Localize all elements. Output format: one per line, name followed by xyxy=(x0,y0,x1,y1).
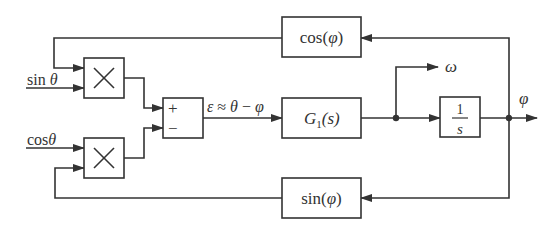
wire-mult-bottom-to-summer xyxy=(124,128,163,158)
output-omega-label: ω xyxy=(445,57,457,76)
junction-omega xyxy=(393,115,399,121)
wire-mult-top-to-summer xyxy=(124,78,163,108)
pll-block-diagram: + − ε ≈ θ − φ G1(s) 1 s cos(φ) sin(φ) si… xyxy=(0,0,558,234)
integrator-numerator: 1 xyxy=(457,102,464,117)
controller-block: G1(s) xyxy=(282,98,361,138)
summing-junction: + − xyxy=(163,98,203,138)
wire-phi-to-cos xyxy=(361,38,509,118)
cos-feedback-block: cos(φ) xyxy=(282,17,361,57)
junction-phi xyxy=(506,115,512,121)
controller-label: G1(s) xyxy=(304,109,340,130)
cos-feedback-label: cos(φ) xyxy=(300,28,343,47)
plus-sign: + xyxy=(168,99,178,118)
sin-feedback-block: sin(φ) xyxy=(282,178,361,218)
wire-phi-to-sin xyxy=(361,118,509,198)
integrator-block: 1 s xyxy=(440,97,480,137)
input-sin-theta-label: sin θ xyxy=(27,71,58,88)
wire-omega-output xyxy=(396,67,438,118)
minus-sign: − xyxy=(168,119,178,138)
integrator-denominator: s xyxy=(457,121,463,137)
output-phi-label: φ xyxy=(519,89,528,108)
input-cos-theta-label: cosθ xyxy=(27,131,56,148)
multiplier-bottom xyxy=(84,138,124,178)
error-label: ε ≈ θ − φ xyxy=(207,98,264,116)
multiplier-top xyxy=(84,58,124,98)
sin-feedback-label: sin(φ) xyxy=(301,189,342,208)
